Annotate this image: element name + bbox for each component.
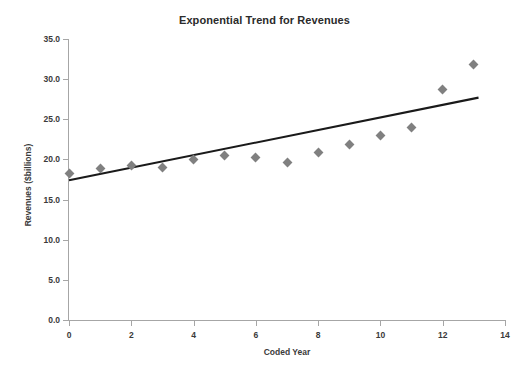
trend-line (0, 0, 529, 371)
y-axis-title: Revenues ($billions) (23, 105, 33, 265)
x-axis-title: Coded Year (68, 347, 506, 357)
plot-area: 0.05.010.015.020.025.030.035.0 024681012… (0, 0, 529, 371)
chart-screenshot: Exponential Trend for Revenues 0.05.010.… (0, 0, 529, 371)
